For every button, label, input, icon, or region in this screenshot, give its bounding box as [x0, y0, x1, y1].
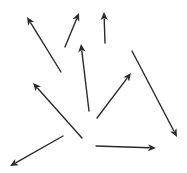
arrow [78, 44, 89, 111]
arrow-shaft [82, 51, 89, 111]
arrow [27, 17, 61, 72]
arrow-shaft [97, 79, 127, 118]
arrows-layer [10, 12, 177, 166]
arrow [33, 83, 82, 138]
arrow-shaft [31, 23, 61, 72]
arrow [132, 51, 177, 137]
arrow-diagram [0, 0, 187, 173]
arrow-diagram-svg [0, 0, 187, 173]
arrow-shaft [16, 136, 63, 163]
arrow [101, 12, 108, 43]
arrow [65, 13, 79, 47]
arrow [97, 73, 131, 118]
arrow-shaft [38, 88, 82, 138]
arrow [10, 136, 63, 166]
arrow-shaft [132, 51, 174, 131]
arrow [96, 144, 156, 151]
arrow-shaft [65, 19, 76, 47]
arrowhead-icon [27, 17, 34, 26]
arrow-shaft [96, 146, 149, 148]
arrow-shaft [104, 19, 105, 43]
arrowhead-icon [123, 73, 131, 82]
